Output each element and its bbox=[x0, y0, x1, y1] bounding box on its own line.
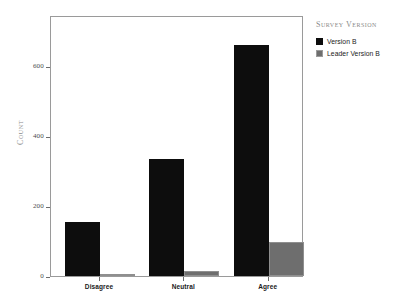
legend-item-label: Version B bbox=[327, 38, 357, 45]
plot-area bbox=[51, 17, 302, 276]
bar-agree-series-1 bbox=[234, 45, 269, 276]
x-axis-tick-mark bbox=[268, 277, 269, 281]
x-axis-tick-label: Disagree bbox=[85, 283, 113, 290]
bar-disagree-series-2 bbox=[100, 274, 135, 276]
x-axis-tick-mark bbox=[183, 277, 184, 281]
legend-item-label: Leader Version B bbox=[327, 50, 380, 57]
plot-frame bbox=[50, 16, 303, 277]
black-swatch bbox=[316, 38, 323, 45]
gray-swatch bbox=[316, 50, 323, 57]
legend: Survey Version Version BLeader Version B bbox=[316, 20, 402, 62]
x-axis-tick-mark bbox=[99, 277, 100, 281]
y-axis-tick-label: 200 bbox=[33, 202, 44, 210]
x-axis-tick-group: DisagreeNeutralAgree bbox=[50, 277, 303, 307]
legend-item-list: Version BLeader Version B bbox=[316, 38, 402, 57]
x-axis-tick-label: Agree bbox=[258, 283, 277, 290]
bar-neutral-series-1 bbox=[149, 159, 184, 276]
x-axis-tick-label: Neutral bbox=[172, 283, 195, 290]
bar-agree-series-2 bbox=[269, 242, 304, 276]
y-axis-tick-label: 0 bbox=[40, 272, 44, 280]
y-axis-tick-label: 600 bbox=[33, 62, 44, 70]
y-axis-tick-label: 400 bbox=[33, 132, 44, 140]
legend-item[interactable]: Version B bbox=[316, 38, 402, 45]
y-axis-tick-group: 0200400600 bbox=[0, 0, 50, 307]
legend-title: Survey Version bbox=[316, 20, 402, 29]
legend-item[interactable]: Leader Version B bbox=[316, 50, 402, 57]
bar-chart-figure: Count 0200400600 DisagreeNeutralAgree Su… bbox=[0, 0, 403, 307]
bar-disagree-series-1 bbox=[65, 222, 100, 276]
bar-neutral-series-2 bbox=[184, 271, 219, 276]
